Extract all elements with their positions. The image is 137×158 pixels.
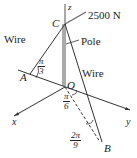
x-axis: [14, 87, 65, 116]
angle-b-den: 9: [70, 141, 81, 150]
z-axis-label: z: [68, 3, 72, 12]
point-a-label: A: [20, 72, 27, 83]
pole: [62, 24, 66, 86]
wire-right-label: Wire: [82, 68, 104, 79]
force-label: 2500 N: [88, 10, 121, 21]
x-axis-label: x: [12, 117, 16, 127]
force-arrow: [65, 12, 86, 24]
y-arrow-icon: [125, 107, 130, 110]
y-axis-label: y: [126, 117, 130, 127]
point-b-label: B: [104, 143, 111, 154]
angle-a-label: π 3: [38, 57, 45, 76]
pole-label: Pole: [81, 36, 101, 47]
angle-o-den: 6: [63, 102, 70, 111]
pole-leader: [66, 40, 79, 44]
angle-a-den: 3: [38, 67, 45, 76]
point-o-label: O: [67, 80, 75, 91]
angle-b-label: 2π 9: [70, 131, 81, 150]
wire-left-label: Wire: [4, 34, 26, 45]
point-c-label: C: [52, 18, 59, 29]
angle-o-label: π 6: [63, 92, 70, 111]
wire-ca: [30, 24, 65, 74]
